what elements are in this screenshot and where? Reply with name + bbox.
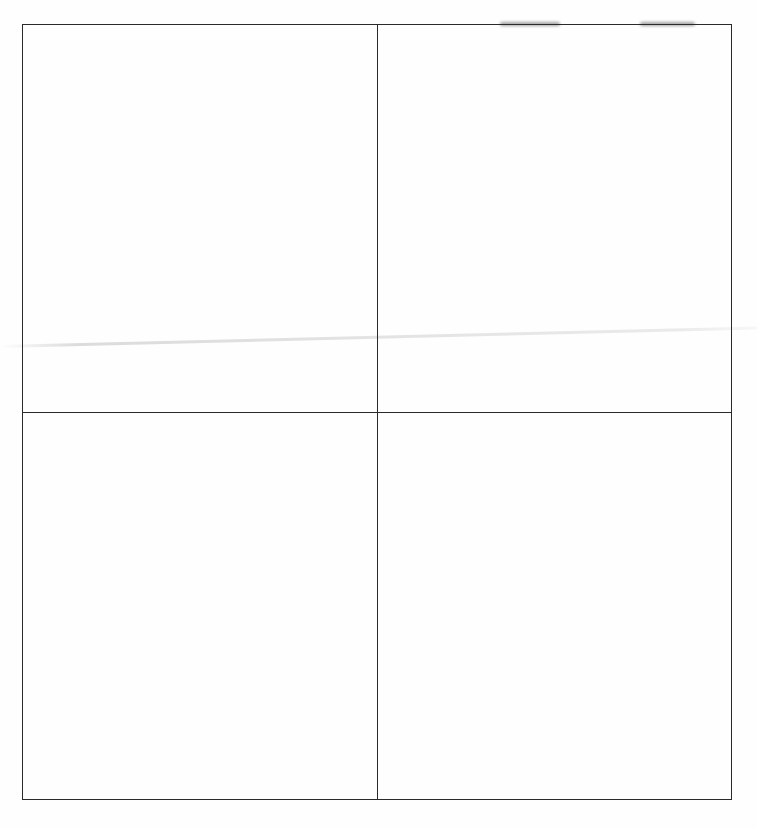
scanned-page [0,0,757,828]
grid-cell-bottom-right [379,414,731,799]
grid-cell-top-right [379,25,731,412]
grid-cell-top-left [23,25,377,412]
grid-frame [22,24,732,800]
grid-cell-bottom-left [23,414,377,799]
horizontal-divider [23,412,731,413]
